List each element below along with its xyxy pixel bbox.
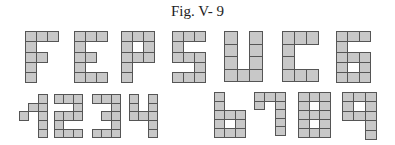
filled-cell bbox=[38, 129, 48, 139]
filled-cell bbox=[85, 52, 97, 63]
filled-cell bbox=[25, 72, 37, 83]
filled-cell bbox=[254, 101, 265, 111]
filled-cell bbox=[249, 31, 263, 45]
filled-cell bbox=[121, 72, 133, 83]
filled-cell bbox=[73, 111, 83, 121]
filled-cell bbox=[235, 128, 246, 138]
filled-cell bbox=[143, 52, 155, 63]
filled-cell bbox=[282, 44, 295, 58]
filled-cell bbox=[47, 31, 59, 42]
filled-cell bbox=[306, 69, 319, 83]
filled-cell bbox=[148, 129, 158, 139]
filled-cell bbox=[194, 31, 206, 42]
filled-cell bbox=[111, 129, 121, 139]
filled-cell bbox=[365, 130, 377, 140]
filled-cell bbox=[282, 56, 295, 70]
filled-cell bbox=[96, 31, 108, 42]
filled-cell bbox=[249, 56, 263, 70]
filled-cell bbox=[96, 72, 108, 83]
filled-cell bbox=[237, 69, 251, 83]
filled-cell bbox=[224, 69, 238, 83]
filled-cell bbox=[306, 31, 319, 45]
filled-cell bbox=[73, 129, 83, 139]
filled-cell bbox=[275, 126, 286, 136]
filled-cell bbox=[359, 31, 371, 42]
filled-cell bbox=[249, 69, 263, 83]
filled-cell bbox=[249, 44, 263, 58]
filled-cell bbox=[194, 72, 206, 83]
filled-cell bbox=[36, 52, 48, 63]
filled-cell bbox=[224, 44, 238, 58]
filled-cell bbox=[224, 31, 238, 45]
filled-cell bbox=[19, 111, 29, 121]
filled-cell bbox=[359, 72, 371, 83]
figure-caption: Fig. V- 9 bbox=[0, 3, 395, 20]
filled-cell bbox=[224, 56, 238, 70]
filled-cell bbox=[319, 128, 331, 138]
